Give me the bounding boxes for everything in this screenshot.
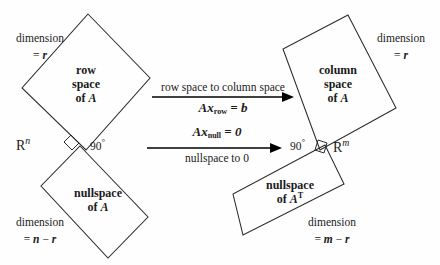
- degree-symbol-left: °: [102, 137, 106, 147]
- row-space-label-line2: space: [56, 77, 116, 91]
- arrow-2-expr-subscript: null: [208, 131, 221, 140]
- arrow-1-below-label: Axrow = b: [155, 100, 291, 115]
- row-space-label-line1: row: [56, 63, 116, 77]
- domain-space-label: Rn: [16, 138, 30, 155]
- nullspace-dimension-line2: = n − r: [2, 233, 78, 247]
- column-space-label-line3: of A: [305, 91, 371, 105]
- domain-space-letter: R: [16, 138, 25, 153]
- codomain-space-exponent: m: [342, 137, 349, 148]
- nullspace-dimension-line1: dimension: [2, 216, 78, 230]
- angle-marker-right-label: 90°: [290, 140, 305, 154]
- column-space-label-line2: space: [305, 77, 371, 91]
- arrow-2-above-label: Axnull = 0: [152, 124, 282, 139]
- arrow-1-expr-prefix: Ax: [199, 100, 214, 115]
- codomain-space-letter: R: [333, 140, 342, 155]
- four-fundamental-subspaces-figure: row space of A dimension = r nullspace o…: [0, 0, 440, 265]
- row-space-label-line3: of A: [56, 91, 116, 105]
- column-space-dimension-line2: = r: [363, 49, 439, 63]
- nullspace-label-line1: nullspace: [58, 186, 138, 200]
- row-space-label: row space of A: [56, 63, 116, 105]
- left-nullspace-dimension: dimension = m − r: [288, 216, 376, 246]
- degree-symbol-right: °: [302, 137, 306, 147]
- angle-marker-left-label: 90°: [90, 140, 105, 154]
- column-space-dimension: dimension = r: [363, 32, 439, 62]
- column-space-label: column space of A: [305, 63, 371, 105]
- arrow-1-expr-suffix: = b: [227, 100, 247, 115]
- domain-space-exponent: n: [25, 135, 30, 146]
- arrow-2-expr-suffix: = 0: [221, 124, 241, 139]
- left-nullspace-dimension-line2: = m − r: [288, 233, 376, 247]
- row-space-dimension-line1: dimension: [2, 32, 78, 46]
- arrow-1-above-label: row space to column space: [143, 81, 303, 95]
- column-space-dimension-line1: dimension: [363, 32, 439, 46]
- left-nullspace-label-line1: nullspace: [248, 178, 332, 192]
- arrow-1-expr-subscript: row: [214, 107, 227, 116]
- left-nullspace-label-line2: of AT: [248, 192, 332, 206]
- left-nullspace-dimension-line1: dimension: [288, 216, 376, 230]
- right-angle-marker-left: [64, 135, 79, 150]
- arrow-2-expr-prefix: Ax: [192, 124, 207, 139]
- row-space-dimension-line2: = r: [2, 49, 78, 63]
- angle-right-value: 90: [290, 140, 302, 152]
- nullspace-dimension: dimension = n − r: [2, 216, 78, 246]
- row-space-dimension: dimension = r: [2, 32, 78, 62]
- arrow-2-below-label: nullspace to 0: [152, 152, 282, 166]
- column-space-label-line1: column: [305, 63, 371, 77]
- nullspace-label-line2: of A: [58, 200, 138, 214]
- codomain-space-label: Rm: [333, 140, 349, 157]
- nullspace-label: nullspace of A: [58, 186, 138, 214]
- left-nullspace-label: nullspace of AT: [248, 178, 332, 206]
- angle-left-value: 90: [90, 140, 102, 152]
